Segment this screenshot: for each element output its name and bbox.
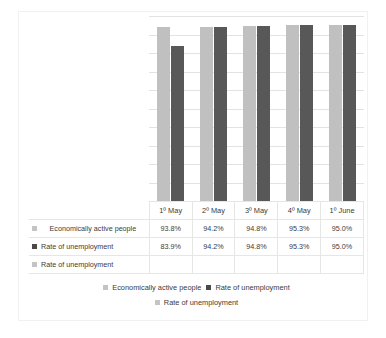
bar-group [235,16,278,201]
table-value-cell: 94.8% [235,219,278,237]
series-name: Rate of unemployment [41,260,149,269]
table-value-cell: 95.0% [321,237,364,255]
legend-item[interactable]: Economically active people [103,283,201,292]
table-category-header: 3º May [235,202,278,220]
table-row-label: Economically active people [29,219,149,237]
series-marker-dark-icon [32,244,37,249]
bar [157,27,170,201]
table-value-cell: 95.3% [278,219,321,237]
series-marker-light-icon [32,226,37,231]
table-value-cell: 94.2% [192,219,235,237]
legend-row-secondary: Rate of unemployment [29,295,364,310]
table-value-cell: 95.3% [278,237,321,255]
table-row-label: Rate of unemployment [29,255,149,273]
table-value-cell [235,255,278,273]
table-value-cell [278,255,321,273]
bar [343,25,356,201]
table-value-cell: 94.2% [192,237,235,255]
bar [200,27,213,201]
legend-swatch-light-icon [103,285,108,290]
bar-group [192,16,235,201]
table-value-cell: 94.8% [235,237,278,255]
bar-group [321,16,364,201]
bar [243,26,256,201]
table-row: Economically active people93.8%94.2%94.8… [29,219,364,237]
table-value-cell: 93.8% [149,219,192,237]
table-category-header: 1º June [321,202,364,220]
table-value-cell: 83.9% [149,237,192,255]
table-row: Rate of unemployment [29,255,364,273]
series-name: Rate of unemployment [41,242,149,251]
bar-group [149,16,192,201]
bar [257,26,270,201]
legend-label: Rate of unemployment [164,298,238,307]
legend-label: Rate of unemployment [215,283,289,292]
table-corner-cell [29,202,149,220]
legend-item[interactable]: Rate of unemployment [206,283,289,292]
bars-layer [149,16,364,201]
chart-frame: 1º May2º May3º May4º May1º JuneEconomica… [18,11,368,321]
bar [214,27,227,201]
legend-swatch-light-icon [155,300,160,305]
chart-legend: Economically active peopleRate of unempl… [29,280,364,310]
table-value-cell [321,255,364,273]
plot-area [149,16,364,201]
series-name: Economically active people [41,224,149,233]
table-category-header: 1º May [149,202,192,220]
bar [171,46,184,201]
legend-swatch-dark-icon [206,285,211,290]
table-category-header: 2º May [192,202,235,220]
legend-row-primary: Economically active peopleRate of unempl… [29,280,364,295]
legend-item[interactable]: Rate of unemployment [155,298,238,307]
table-row-label: Rate of unemployment [29,237,149,255]
table-category-header: 4º May [278,202,321,220]
bar [300,25,313,201]
table-value-cell: 95.0% [321,219,364,237]
series-marker-light-icon [32,262,37,267]
bar [286,25,299,201]
bar-group [278,16,321,201]
table-row: Rate of unemployment83.9%94.2%94.8%95.3%… [29,237,364,255]
table-value-cell [149,255,192,273]
table-header-row: 1º May2º May3º May4º May1º June [29,202,364,220]
data-table: 1º May2º May3º May4º May1º JuneEconomica… [29,201,364,274]
table-value-cell [192,255,235,273]
bar [329,25,342,201]
legend-label: Economically active people [112,283,201,292]
